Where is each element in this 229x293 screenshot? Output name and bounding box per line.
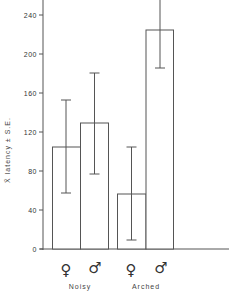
y-tick-label: 40 — [28, 207, 37, 214]
y-tick-label: 120 — [24, 129, 37, 136]
y-tick-label: 200 — [24, 51, 37, 58]
bar-noisy-female — [53, 100, 81, 249]
y-tick-label: 0 — [33, 246, 37, 253]
y-tick-label: 80 — [28, 168, 37, 175]
y-tick-label: 240 — [24, 12, 37, 19]
bar-noisy-male — [81, 73, 109, 249]
bar-chart: 0 40 80 120 160 200 240 X̄ latency ± S.E… — [0, 0, 229, 293]
group-label-noisy: Noisy — [69, 283, 92, 291]
male-symbol-noisy: ♂ — [88, 259, 101, 277]
y-axis-label: X̄ latency ± S.E. — [4, 117, 12, 183]
y-tick-label: 160 — [24, 90, 37, 97]
bar-arched-female — [118, 147, 147, 249]
group-label-arched: Arched — [132, 283, 160, 290]
female-symbol-arched: ♀ — [126, 261, 137, 279]
female-symbol-noisy: ♀ — [61, 261, 72, 279]
y-ticks — [39, 15, 43, 249]
male-symbol-arched: ♂ — [154, 259, 167, 277]
bar-arched-male — [146, 0, 174, 249]
